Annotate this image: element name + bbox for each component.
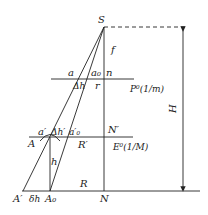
- label-H: H: [167, 104, 178, 114]
- ray-S-A0: [50, 27, 104, 191]
- label-delta-h: Δh: [72, 81, 85, 91]
- label-a0: a₀: [91, 67, 101, 78]
- label-photo-plane: P⁰(1/m): [129, 84, 164, 94]
- label-a0-prime: a′₀: [69, 127, 80, 137]
- label-A-prime: A′: [12, 193, 23, 204]
- label-n: n: [106, 67, 112, 78]
- label-a: a: [68, 67, 74, 78]
- label-delta-h-ground: δh: [29, 194, 40, 204]
- label-h: h: [51, 156, 57, 167]
- label-delta-h-prime: Δh′: [50, 127, 65, 137]
- label-A0: A₀: [44, 193, 56, 204]
- label-A: A: [27, 138, 35, 149]
- label-a-prime: a′: [38, 126, 47, 137]
- diagram-canvas: S f a a₀ n Δh r P⁰(1/m) a′ Δh′ a′₀ N′ A …: [0, 0, 208, 215]
- label-S: S: [98, 14, 105, 25]
- label-r: r: [95, 80, 101, 91]
- label-ortho-plane: E⁰(1/M): [112, 142, 149, 152]
- label-N: N: [99, 193, 110, 204]
- label-R: R: [79, 178, 88, 189]
- label-f: f: [110, 44, 117, 55]
- relief-displacement-diagram: S f a a₀ n Δh r P⁰(1/m) a′ Δh′ a′₀ N′ A …: [0, 0, 208, 215]
- label-R-prime: R′: [77, 139, 89, 150]
- ray-S-A-prime: [23, 27, 104, 191]
- label-N-prime: N′: [107, 124, 120, 135]
